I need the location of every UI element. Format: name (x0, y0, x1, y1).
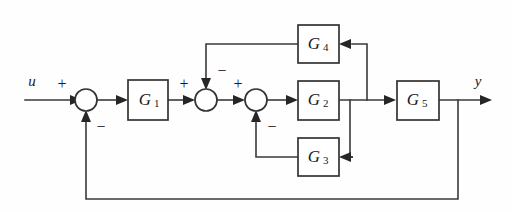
input-label-u: u (28, 73, 36, 89)
wire-s3-to-g2 (267, 95, 298, 105)
output-label-y: y (473, 73, 482, 89)
block-g3-subscript: 3 (323, 154, 329, 166)
block-g3-label: G (308, 147, 320, 166)
block-diagram-container: G 1 G 2 G 3 G 4 G 5 + − + − + − (0, 0, 512, 212)
sign-s1-minus: − (96, 118, 105, 135)
wire-feedback-g4-out (201, 44, 298, 90)
block-g1-subscript: 1 (154, 97, 160, 109)
block-g1: G 1 (128, 80, 168, 120)
wire-s1-to-g1 (97, 95, 128, 105)
wire-feedback-g4-in (339, 39, 367, 100)
block-g1-label: G (139, 90, 151, 109)
sign-s2-plus: + (179, 75, 188, 92)
block-g5-label: G (407, 90, 419, 109)
sign-s1-plus: + (57, 75, 66, 92)
block-g4-label: G (308, 34, 320, 53)
block-g2-label: G (308, 90, 320, 109)
sign-s2-minus: − (217, 62, 226, 79)
wire-feedback-g3-in (339, 100, 352, 162)
sign-s3-minus: − (267, 118, 276, 135)
wire-input-u (25, 95, 82, 105)
block-g2-subscript: 2 (323, 97, 329, 109)
wire-g5-to-output-y (439, 95, 492, 105)
block-g5-subscript: 5 (422, 97, 428, 109)
wire-g1-to-s2 (168, 95, 195, 105)
summing-junction-s1 (75, 89, 97, 111)
block-g2: G 2 (298, 81, 339, 120)
block-g5: G 5 (397, 81, 439, 120)
sign-s3-plus: + (233, 75, 242, 92)
summing-junction-s2 (195, 89, 217, 111)
block-g4-subscript: 4 (323, 41, 329, 53)
control-system-block-diagram: G 1 G 2 G 3 G 4 G 5 + − + − + − (0, 0, 512, 212)
summing-junction-s3 (245, 89, 267, 111)
wire-s2-to-s3 (217, 95, 245, 105)
block-g3: G 3 (298, 138, 339, 176)
block-g4: G 4 (298, 25, 339, 63)
